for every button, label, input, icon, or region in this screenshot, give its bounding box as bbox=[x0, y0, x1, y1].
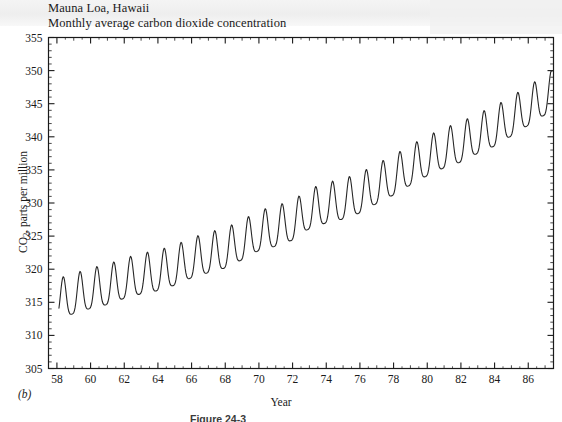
x-tick-label: 62 bbox=[119, 373, 131, 385]
x-tick-label: 72 bbox=[287, 373, 299, 385]
y-tick-label: 310 bbox=[25, 329, 43, 341]
y-tick-label: 355 bbox=[25, 32, 43, 44]
y-tick-label: 350 bbox=[25, 65, 43, 77]
x-tick-label: 68 bbox=[220, 373, 232, 385]
x-tick-label: 80 bbox=[422, 373, 434, 385]
x-tick-label: 78 bbox=[388, 373, 400, 385]
x-tick-label: 82 bbox=[455, 373, 467, 385]
y-tick-label: 315 bbox=[25, 296, 43, 308]
x-tick-label: 58 bbox=[51, 373, 63, 385]
x-axis-label: Year bbox=[0, 396, 562, 408]
y-tick-label: 345 bbox=[25, 98, 43, 110]
x-tick-label: 74 bbox=[321, 373, 333, 385]
keeling-curve-svg: 3053103153203253303353403453503555860626… bbox=[0, 0, 562, 422]
x-tick-label: 66 bbox=[186, 373, 198, 385]
x-tick-label: 64 bbox=[152, 373, 164, 385]
y-tick-label: 305 bbox=[25, 363, 43, 375]
co2-data-curve bbox=[59, 70, 552, 314]
tick-labels-layer: 3053103153203253303353403453503555860626… bbox=[25, 32, 534, 385]
y-axis-label: CO2, parts per million bbox=[17, 122, 29, 282]
x-tick-label: 84 bbox=[489, 373, 501, 385]
x-tick-label: 60 bbox=[85, 373, 97, 385]
x-tick-label: 70 bbox=[253, 373, 265, 385]
plot-area: 3053103153203253303353403453503555860626… bbox=[0, 0, 562, 422]
panel-label: (b) bbox=[18, 388, 31, 400]
x-tick-label: 86 bbox=[523, 373, 535, 385]
figure-caption: Figure 24-3 bbox=[190, 413, 246, 422]
x-tick-label: 76 bbox=[354, 373, 366, 385]
